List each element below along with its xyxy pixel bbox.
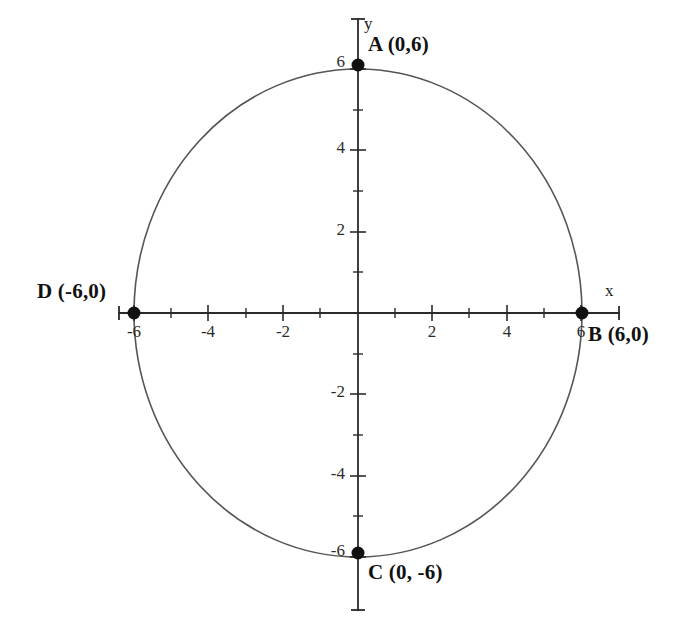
point-c-marker xyxy=(352,547,365,560)
x-tick-label-neg6: -6 xyxy=(114,322,154,342)
y-tick-label-neg2: -2 xyxy=(300,382,345,402)
x-tick-label-neg2: -2 xyxy=(263,322,303,342)
x-tick-label-neg4: -4 xyxy=(188,322,228,342)
y-tick-label-neg6: -6 xyxy=(300,541,345,561)
y-tick-label-pos6: 6 xyxy=(305,52,345,72)
x-tick-label-pos2: 2 xyxy=(412,322,452,342)
y-tick-label-pos2: 2 xyxy=(305,220,345,240)
point-d-label: D (-6,0) xyxy=(37,279,106,304)
x-tick-label-pos6: 6 xyxy=(561,322,601,342)
y-tick-label-pos4: 4 xyxy=(305,138,345,158)
coordinate-plane-svg xyxy=(0,0,690,631)
point-b-marker xyxy=(576,307,589,320)
x-tick-label-pos4: 4 xyxy=(487,322,527,342)
graph-figure: y x A (0,6) B (6,0) C (0, -6) D (-6,0) -… xyxy=(0,0,690,631)
x-axis-label: x xyxy=(605,281,614,301)
y-tick-label-neg4: -4 xyxy=(300,464,345,484)
point-c-label: C (0, -6) xyxy=(368,560,443,585)
point-a-label: A (0,6) xyxy=(368,32,429,57)
point-d-marker xyxy=(128,307,141,320)
y-axis-label: y xyxy=(364,14,373,34)
point-a-marker xyxy=(352,59,365,72)
